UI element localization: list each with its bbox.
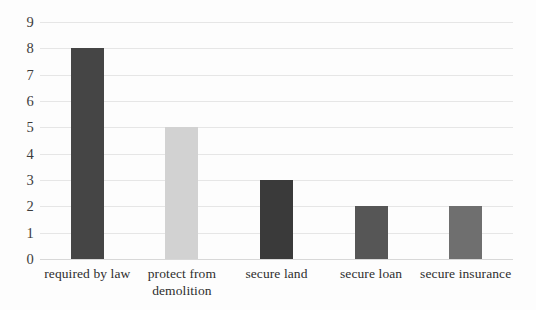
y-tick-label: 7: [6, 67, 34, 82]
gridline-8: [40, 48, 513, 49]
gridline-9: [40, 22, 513, 23]
bar: [71, 48, 104, 259]
gridline-4: [40, 154, 513, 155]
x-tick-label: secure insurance: [418, 265, 513, 282]
y-tick-label: 4: [6, 146, 34, 161]
bar: [260, 180, 293, 259]
x-tick-label: protect from demolition: [135, 265, 230, 300]
y-tick-label: 0: [6, 252, 34, 267]
plot-area: [40, 22, 513, 259]
y-tick-label: 5: [6, 120, 34, 135]
x-tick-label: secure loan: [324, 265, 419, 282]
x-tick-label: secure land: [229, 265, 324, 282]
gridline-5: [40, 127, 513, 128]
y-tick-label: 6: [6, 94, 34, 109]
y-tick-label: 2: [6, 199, 34, 214]
bar: [355, 206, 388, 259]
gridline-6: [40, 101, 513, 102]
y-tick-label: 1: [6, 225, 34, 240]
y-tick-label: 3: [6, 173, 34, 188]
y-axis: 0123456789: [0, 0, 34, 310]
bar: [449, 206, 482, 259]
bar: [165, 127, 198, 259]
y-tick-label: 8: [6, 41, 34, 56]
y-tick-label: 9: [6, 15, 34, 30]
gridline-7: [40, 75, 513, 76]
bar-chart: 0123456789 required by lawprotect from d…: [0, 0, 536, 310]
gridline-0: [40, 259, 513, 260]
x-tick-label: required by law: [40, 265, 135, 282]
x-axis: required by lawprotect from demolitionse…: [40, 265, 513, 310]
